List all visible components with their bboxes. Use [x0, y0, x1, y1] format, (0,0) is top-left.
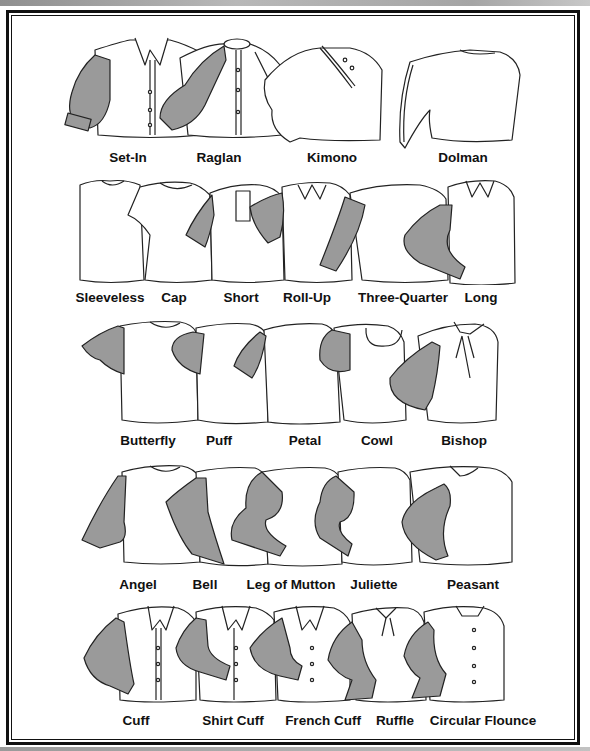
- sleeve-label: Leg of Mutton: [246, 577, 335, 592]
- sleeve-label: Cuff: [123, 713, 150, 728]
- sleeve-row-1: Set-In Raglan Kimono Dolman: [0, 30, 590, 180]
- sleeve-label: Cowl: [361, 433, 393, 448]
- sleeve-label: Bishop: [441, 433, 487, 448]
- sleeve-label: Butterfly: [120, 433, 176, 448]
- sleeve-label: Shirt Cuff: [202, 713, 264, 728]
- sleeve-row-4: Angel Bell Leg of Mutton Juliette Peasan…: [0, 462, 590, 602]
- sleeve-label: Juliette: [350, 577, 397, 592]
- row-1-illustration: [0, 30, 590, 150]
- row-5-illustration: [0, 600, 590, 710]
- bottom-edge-bar: [0, 747, 590, 751]
- sleeve-label: Sleeveless: [75, 290, 144, 305]
- sleeve-label: Three-Quarter: [358, 290, 448, 305]
- sleeve-label: Kimono: [307, 150, 357, 165]
- sleeve-label: Raglan: [196, 150, 241, 165]
- sleeve-label: Circular Flounce: [430, 713, 537, 728]
- sleeve-label: Angel: [119, 577, 157, 592]
- row-2-illustration: [0, 175, 590, 285]
- sleeve-label: French Cuff: [285, 713, 361, 728]
- top-edge-bar: [0, 0, 590, 6]
- sleeve-label: Set-In: [109, 150, 147, 165]
- sleeve-label: Cap: [161, 290, 187, 305]
- sleeve-label: Ruffle: [376, 713, 414, 728]
- sleeve-row-2: Sleeveless Cap Short Roll-Up Three-Quart…: [0, 175, 590, 315]
- row-3-illustration: [0, 318, 590, 428]
- sleeve-label: Long: [465, 290, 498, 305]
- sleeve-label: Roll-Up: [283, 290, 331, 305]
- sleeve-label: Petal: [289, 433, 321, 448]
- sleeve-row-3: Butterfly Puff Petal Cowl Bishop: [0, 318, 590, 458]
- sleeve-label: Peasant: [447, 577, 499, 592]
- row-4-illustration: [0, 462, 590, 572]
- sleeve-label: Dolman: [438, 150, 488, 165]
- sleeve-label: Short: [223, 290, 258, 305]
- sleeve-label: Puff: [206, 433, 232, 448]
- sleeve-row-5: Cuff Shirt Cuff French Cuff Ruffle Circu…: [0, 600, 590, 740]
- sleeve-label: Bell: [193, 577, 218, 592]
